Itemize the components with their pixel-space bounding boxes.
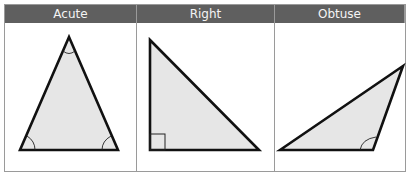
header-acute: Acute	[5, 5, 137, 23]
header-obtuse: Obtuse	[275, 5, 405, 23]
header-right: Right	[137, 5, 275, 23]
triangle-types-table: Acute Right Obtuse	[4, 4, 406, 172]
cell-obtuse	[275, 23, 405, 171]
cell-acute	[5, 23, 137, 171]
cell-right	[137, 23, 275, 171]
